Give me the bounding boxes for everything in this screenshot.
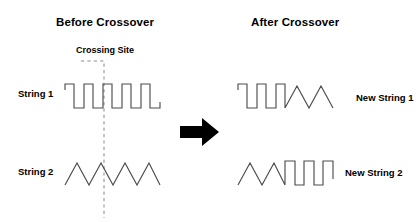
string-1-polyline — [65, 84, 160, 108]
string-1-waveform — [65, 84, 161, 110]
string-2-waveform — [65, 161, 161, 187]
crossing-site-dashed-guide — [0, 0, 420, 222]
new-string-1-polyline — [238, 84, 333, 108]
string-2-polyline — [65, 163, 160, 185]
new-string-2-waveform — [238, 161, 334, 187]
crossover-arrow — [180, 117, 220, 147]
crossover-diagram: Before Crossover After Crossover Crossin… — [0, 0, 420, 222]
arrow-shape — [180, 118, 219, 146]
new-string-1-waveform — [238, 84, 334, 110]
new-string-2-polyline — [238, 161, 333, 185]
